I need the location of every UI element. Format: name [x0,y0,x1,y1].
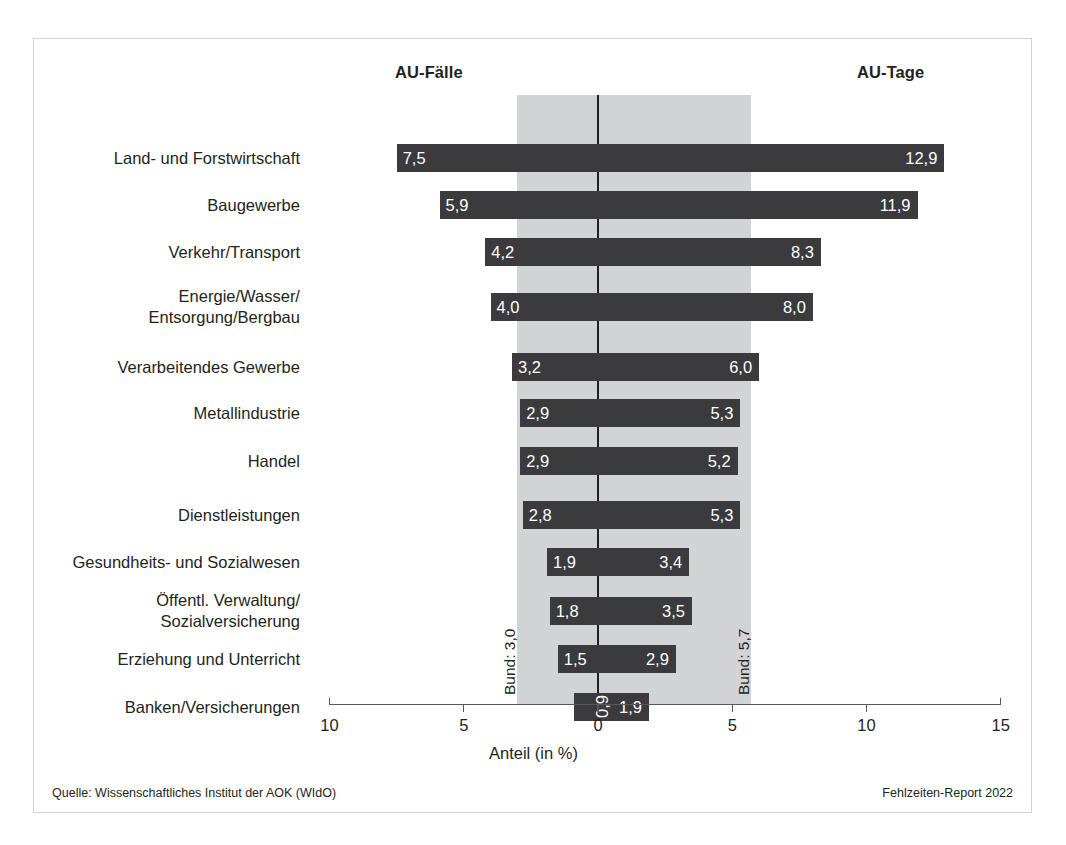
axis-tick-label: 15 [992,716,1010,735]
bar-value-au-faelle: 1,8 [556,603,579,620]
bar-value-au-faelle: 2,9 [526,405,549,422]
axis-tick-label: 10 [320,716,338,735]
bar-value-au-faelle: 2,9 [526,453,549,470]
bar-value-au-tage: 5,3 [710,405,733,422]
axis-tick [463,704,464,712]
category-label: Erziehung und Unterricht [117,649,300,670]
category-label: Baugewerbe [207,195,300,216]
category-label: Öffentl. Verwaltung/ Sozialversicherung [156,590,300,632]
figure-frame: AU-Fälle AU-Tage Land- und Forstwirtscha… [33,38,1032,813]
category-label: Metallindustrie [194,403,300,424]
axis-tick [866,704,867,712]
axis-tick-label: 10 [857,716,875,735]
bar-value-au-tage: 3,5 [662,603,685,620]
category-label: Verarbeitendes Gewerbe [117,357,300,378]
bar-value-au-faelle: 1,5 [564,651,587,668]
bar-au-tage [598,144,944,172]
axis-tick-label: 5 [459,716,468,735]
category-label: Energie/Wasser/ Entsorgung/Bergbau [149,286,300,328]
plot-area: Land- und Forstwirtschaft7,512,9Baugewer… [34,95,1033,704]
bar-value-au-tage: 3,4 [659,554,682,571]
category-label: Handel [248,451,300,472]
bar-value-au-tage: 12,9 [905,150,937,167]
category-label: Verkehr/Transport [169,242,300,263]
x-axis-line [330,704,1001,705]
bar-au-tage [598,238,821,266]
category-label: Gesundheits- und Sozialwesen [72,552,299,573]
bar-value-au-tage: 11,9 [880,197,911,214]
x-axis: 105051015 Anteil (in %) [34,704,1033,764]
axis-tick-label: 0 [593,716,602,735]
bar-value-au-faelle: 4,0 [497,299,520,316]
series-header-au-faelle: AU-Fälle [395,63,463,82]
axis-tick [329,698,330,705]
bar-value-au-faelle: 1,9 [553,554,576,571]
bar-value-au-tage: 8,3 [791,244,814,261]
bar-au-faelle [397,144,598,172]
axis-tick [597,704,598,712]
bund-left-annotation: Bund: 3,0 [501,629,519,695]
bar-value-au-tage: 2,9 [646,651,669,668]
bund-right-annotation: Bund: 5,7 [735,629,753,695]
category-label: Dienstleistungen [178,505,300,526]
source-note: Quelle: Wissenschaftliches Institut der … [52,786,336,800]
bar-value-au-tage: 6,0 [729,359,752,376]
bar-au-tage [598,293,813,321]
x-axis-title: Anteil (in %) [34,744,1033,763]
bar-value-au-tage: 5,2 [708,453,731,470]
category-label: Land- und Forstwirtschaft [114,148,300,169]
series-header-au-tage: AU-Tage [857,63,924,82]
axis-tick [1000,698,1001,705]
bar-value-au-faelle: 2,8 [529,507,552,524]
bar-value-au-faelle: 7,5 [403,150,426,167]
bar-value-au-tage: 5,3 [710,507,733,524]
bar-value-au-faelle: 4,2 [491,244,514,261]
bar-au-tage [598,191,918,219]
axis-tick-label: 5 [728,716,737,735]
bar-value-au-faelle: 5,9 [446,197,469,214]
bar-value-au-faelle: 3,2 [518,359,541,376]
axis-tick [732,704,733,712]
bar-value-au-tage: 8,0 [783,299,806,316]
report-note: Fehlzeiten-Report 2022 [882,786,1013,800]
